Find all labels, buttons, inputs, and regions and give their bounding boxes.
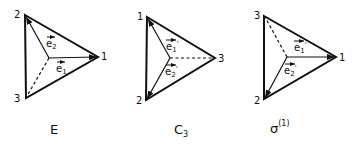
vector-label-e2-prime: e2' [165,65,178,79]
vector-label-e2-prime: e2' [284,64,297,78]
symmetry-operations-figure: 2 1 3 e2 e1 E 1 3 2 e1' e2' C3 [0,0,354,148]
svg-text:e2': e2' [165,65,178,79]
vector-label-e1-prime: e1' [166,40,179,54]
vector-e1-arrow [49,57,96,58]
svg-text:e2: e2 [46,38,57,51]
svg-text:e1: e1 [56,63,67,76]
vertex-label: 1 [339,52,345,63]
svg-text:e2': e2' [284,64,297,78]
vertex-label: 2 [14,9,20,20]
triangle-outline [25,15,98,98]
vertex-label: 3 [14,93,20,104]
vector-label-e1: e1 [56,62,67,76]
vertex-label: 2 [254,95,260,106]
vertex-label: 3 [254,10,260,21]
vertex-label: 3 [218,53,224,64]
caption-sigma1: σ(1) [270,119,290,136]
vertex-label: 2 [136,95,142,106]
svg-text:e1': e1' [166,40,179,54]
diagram-identity-E: 2 1 3 e2 e1 E [14,9,107,137]
caption-E: E [50,122,58,137]
vector-label-e1-prime: e1' [294,41,307,55]
diagram-reflection-sigma1: 3 1 2 e1' e2' σ(1) [254,10,345,136]
diagram-rotation-C3: 1 3 2 e1' e2' C3 [136,11,224,139]
svg-text:e1': e1' [294,41,307,55]
vector-label-e2: e2 [46,37,57,51]
vertex-label: 1 [101,51,107,62]
caption-C3: C3 [174,122,188,139]
vertex-label: 1 [137,11,143,22]
